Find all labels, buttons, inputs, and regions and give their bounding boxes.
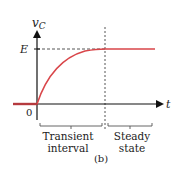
e-level-label: E [19, 43, 28, 56]
transient-label-line1: Transient [43, 130, 95, 142]
transient-bracket [40, 123, 102, 129]
capacitor-voltage-diagram: vC t E 0 Transient interval Steady state… [0, 0, 179, 175]
x-axis-label: t [166, 98, 171, 111]
origin-label: 0 [26, 107, 32, 118]
steady-label-line2: state [119, 142, 145, 154]
voltage-curve [13, 49, 155, 104]
transient-label-line2: interval [47, 142, 89, 154]
y-axis-label: vC [32, 16, 46, 31]
figure-caption: (b) [94, 153, 108, 164]
steady-state-bracket [108, 123, 152, 129]
steady-label-line1: Steady [114, 130, 151, 142]
